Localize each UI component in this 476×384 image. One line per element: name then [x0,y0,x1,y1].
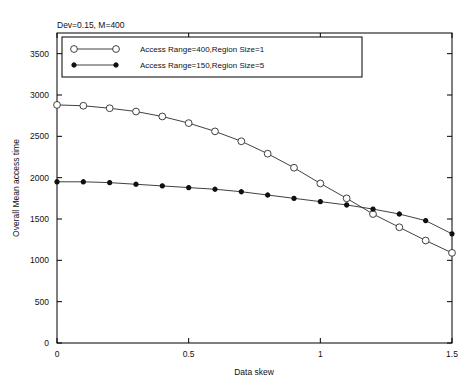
x-tick-label: 1.5 [446,349,458,359]
data-point-marker [81,179,86,184]
chart-legend: Access Range=400,Region Size=1Access Ran… [62,37,362,77]
data-point-marker [291,164,298,171]
data-point-marker [133,182,138,187]
data-point-marker [238,138,245,145]
data-point-marker [106,105,113,112]
legend-label-1: Access Range=400,Region Size=1 [140,45,265,54]
data-point-marker [239,189,244,194]
y-tick-label: 0 [44,338,49,348]
y-tick-label: 2500 [30,131,49,141]
data-point-marker [212,128,219,135]
data-point-marker [133,108,140,115]
data-point-marker [370,207,375,212]
chart-svg: Dev=0.15, M=400 050010001500200025003000… [0,0,476,384]
legend-marker-2 [113,62,118,67]
chart-title: Dev=0.15, M=400 [57,20,125,30]
data-point-marker [422,237,429,244]
data-point-marker [449,231,454,236]
data-point-marker [80,102,87,109]
x-axis-ticks: 00.511.5 [55,33,459,359]
legend-marker-1 [71,46,78,53]
data-point-marker [344,202,349,207]
data-point-marker [54,179,59,184]
y-tick-label: 3500 [30,49,49,59]
y-axis-label: Overall Mean access time [11,139,21,237]
data-point-marker [107,180,112,185]
data-point-marker [212,187,217,192]
data-point-marker [318,199,323,204]
data-point-marker [185,120,192,127]
data-point-marker [397,212,402,217]
data-point-marker [423,218,428,223]
data-point-marker [54,102,61,109]
legend-label-2: Access Range=150,Region Size=5 [140,61,265,70]
y-tick-label: 500 [35,297,49,307]
data-point-marker [264,150,271,157]
data-point-marker [449,249,456,256]
y-tick-label: 1500 [30,214,49,224]
series-line-2 [57,182,452,234]
series-layer [54,102,456,257]
data-point-marker [265,193,270,198]
series-line-1 [57,105,452,253]
x-axis-label: Data skew [234,367,275,377]
y-tick-label: 2000 [30,173,49,183]
x-tick-label: 0 [55,349,60,359]
data-point-marker [396,224,403,231]
legend-marker-2 [71,62,76,67]
chart-figure: Dev=0.15, M=400 050010001500200025003000… [0,0,476,384]
data-point-marker [291,196,296,201]
data-point-marker [186,185,191,190]
data-point-marker [159,113,166,120]
y-tick-label: 3000 [30,90,49,100]
y-axis-ticks: 0500100015002000250030003500 [30,49,452,348]
data-point-marker [343,195,350,202]
legend-box [62,37,362,77]
x-tick-label: 1 [318,349,323,359]
y-tick-label: 1000 [30,255,49,265]
data-point-marker [160,183,165,188]
legend-marker-1 [113,46,120,53]
data-point-marker [317,180,324,187]
plot-frame [57,33,452,343]
x-tick-label: 0.5 [183,349,195,359]
